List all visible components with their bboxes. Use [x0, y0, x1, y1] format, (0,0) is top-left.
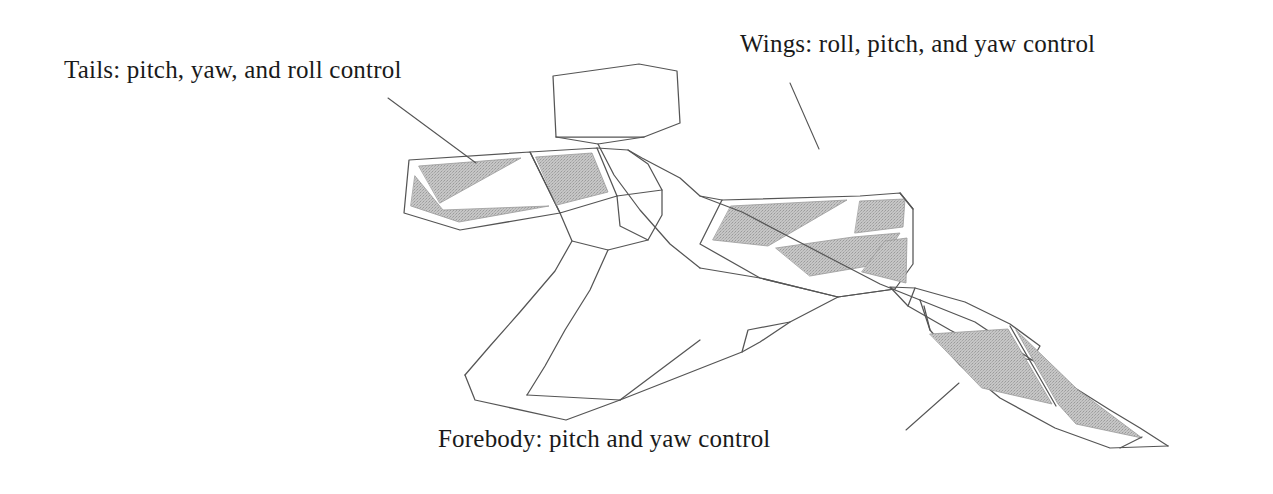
fuselage-spine [598, 144, 700, 268]
leader-line-tails [388, 98, 476, 163]
fin-root-line [556, 137, 644, 144]
label-forebody: Forebody: pitch and yaw control [438, 425, 771, 453]
fuselage-left-lower-edge [527, 250, 608, 395]
nose-tip-chamfer [1120, 437, 1142, 448]
fuselage [465, 144, 920, 420]
figure-canvas: Tails: pitch, yaw, and roll control Wing… [0, 0, 1273, 494]
fuselage-wing-root-lower [620, 297, 838, 400]
fuselage-left-panel [465, 241, 572, 375]
tail-control-surface-3 [536, 153, 608, 205]
horizontal-tail-left [404, 148, 662, 250]
aircraft-body [388, 64, 1168, 448]
wing-control-surface-outboard-flap [855, 199, 905, 233]
tail-boom-inner-line [617, 196, 648, 240]
fuselage-belly-crease [527, 395, 620, 400]
fuselage-belly-outline [465, 340, 700, 420]
tail-control-surface-1 [419, 158, 521, 203]
wing-control-surface-leading-edge-flap [713, 200, 847, 246]
leader-line-wings [790, 83, 819, 149]
label-wings: Wings: roll, pitch, and yaw control [740, 30, 1095, 58]
forebody [920, 300, 1168, 448]
vertical-fin [553, 64, 680, 144]
fin-outline [553, 64, 680, 137]
label-tails: Tails: pitch, yaw, and roll control [64, 56, 402, 84]
leader-line-forebody [906, 383, 959, 430]
